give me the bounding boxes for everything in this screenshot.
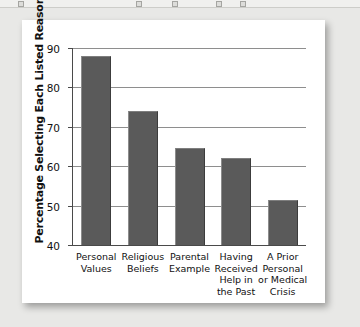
x-axis-tick-label-line: Values (81, 263, 112, 274)
x-axis-tick-label-line: Parental (170, 251, 209, 262)
bar (268, 200, 298, 245)
x-axis-tick-label-line: A Prior (267, 251, 298, 262)
page-scan-top-artifact (0, 0, 360, 8)
x-axis-tick-label-line: Religious (122, 251, 165, 262)
x-axis-tick-label-line: Crisis (270, 286, 296, 297)
chart-plot-wrapper: Percentage Selecting Each Listed Reason … (22, 20, 325, 303)
y-axis-tick: 70 (68, 127, 73, 128)
y-axis-tick: 40 (68, 245, 73, 246)
scan-artifact-mark (172, 1, 178, 7)
y-axis-tick-label: 40 (47, 240, 60, 252)
x-axis-tick-label-line: Personal (76, 251, 116, 262)
bar (81, 56, 111, 245)
y-axis-tick-label: 60 (47, 161, 60, 173)
y-axis-tick: 90 (68, 48, 73, 49)
scan-artifact-mark (18, 1, 24, 7)
scan-artifact-mark (216, 1, 222, 7)
bar (128, 111, 158, 245)
x-axis-tick-label-line: Help in (219, 274, 252, 285)
x-axis-tick-label-line: Received (214, 263, 257, 274)
x-axis-tick-label-line: Example (169, 263, 210, 274)
scan-artifact-mark (136, 1, 142, 7)
gridline (73, 48, 306, 49)
chart-figure-card: Percentage Selecting Each Listed Reason … (22, 20, 325, 303)
y-axis-tick-label: 90 (47, 43, 60, 55)
scan-artifact-mark (240, 1, 246, 7)
x-axis-tick-label-line: Personal (262, 263, 302, 274)
y-axis-tick: 60 (68, 166, 73, 167)
bar (175, 148, 205, 245)
y-axis-tick-label: 80 (47, 82, 60, 94)
y-axis-tick: 80 (68, 87, 73, 88)
y-axis-tick: 50 (68, 206, 73, 207)
x-axis-tick-label-line: or Medical (258, 274, 307, 285)
y-axis-title: Percentage Selecting Each Listed Reason (33, 34, 46, 244)
y-axis-tick-label: 50 (47, 201, 60, 213)
plot-area: 405060708090PersonalValuesReligiousBelie… (72, 48, 306, 246)
x-axis-tick-label: A PriorPersonalor MedicalCrisis (254, 251, 312, 297)
x-axis-tick-label-line: the Past (217, 286, 255, 297)
x-axis-tick-label-line: Beliefs (127, 263, 159, 274)
y-axis-tick-label: 70 (47, 122, 60, 134)
bar (221, 158, 251, 245)
x-axis-tick-label-line: Having (219, 251, 252, 262)
